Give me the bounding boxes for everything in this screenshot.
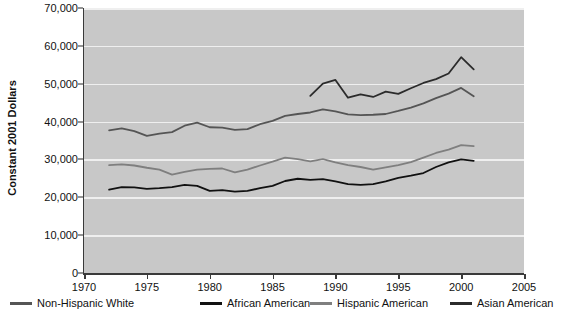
x-tick-label: 1995 xyxy=(386,281,410,293)
y-tick-label: 20,000 xyxy=(20,192,78,203)
x-axis-line xyxy=(83,273,524,275)
legend-item[interactable]: Asian American xyxy=(450,296,553,310)
y-tick-label: 30,000 xyxy=(20,154,78,165)
y-tick-label: 50,000 xyxy=(20,78,78,89)
x-tick-label: 2005 xyxy=(512,281,536,293)
y-tick-label: 0 xyxy=(20,268,78,279)
legend-swatch-icon xyxy=(10,302,32,305)
chart-page: Constant 2001 Dollars 010,00020,00030,00… xyxy=(0,0,577,321)
x-tick-label: 1970 xyxy=(72,281,96,293)
legend-swatch-icon xyxy=(200,302,222,305)
series-line xyxy=(109,145,474,175)
series-line xyxy=(109,159,474,191)
legend-label: Asian American xyxy=(477,297,553,309)
series-line xyxy=(109,88,474,136)
x-tick-mark xyxy=(398,274,400,279)
series-line xyxy=(310,57,473,98)
series-container xyxy=(84,8,524,273)
x-tick-mark xyxy=(524,274,526,279)
x-tick-mark xyxy=(210,274,212,279)
legend-label: African American xyxy=(227,297,310,309)
x-tick-label: 2000 xyxy=(449,281,473,293)
y-tick-label: 10,000 xyxy=(20,230,78,241)
x-tick-mark xyxy=(273,274,275,279)
x-tick-mark xyxy=(461,274,463,279)
legend-item[interactable]: African American xyxy=(200,296,310,310)
legend-item[interactable]: Non-Hispanic White xyxy=(10,296,134,310)
y-tick-label: 40,000 xyxy=(20,116,78,127)
plot-area xyxy=(84,8,524,273)
legend-label: Non-Hispanic White xyxy=(37,297,134,309)
legend-label: Hispanic American xyxy=(337,297,428,309)
x-tick-mark xyxy=(84,274,86,279)
x-tick-label: 1990 xyxy=(323,281,347,293)
y-axis-tick-labels: 010,00020,00030,00040,00050,00060,00070,… xyxy=(16,0,78,321)
legend-item[interactable]: Hispanic American xyxy=(310,296,428,310)
y-tick-label: 60,000 xyxy=(20,40,78,51)
x-tick-mark xyxy=(147,274,149,279)
legend-swatch-icon xyxy=(310,302,332,305)
legend-swatch-icon xyxy=(450,302,472,305)
x-tick-label: 1975 xyxy=(135,281,159,293)
x-tick-mark xyxy=(335,274,337,279)
y-tick-label: 70,000 xyxy=(20,3,78,14)
chart-legend: Non-Hispanic WhiteAfrican AmericanHispan… xyxy=(0,296,577,316)
x-tick-label: 1985 xyxy=(260,281,284,293)
x-tick-label: 1980 xyxy=(197,281,221,293)
